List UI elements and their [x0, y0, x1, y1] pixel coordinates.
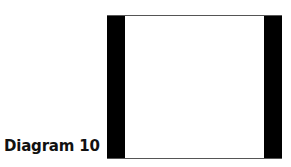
diagram-caption: Diagram 10	[4, 137, 100, 155]
left-black-bar	[107, 16, 125, 158]
diagram-rectangle	[107, 15, 282, 159]
right-black-bar	[264, 16, 282, 158]
